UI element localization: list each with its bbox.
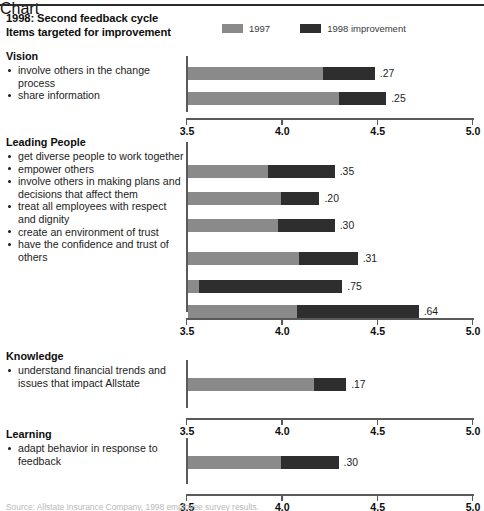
section-labels: Knowledgeunderstand financial trends and…: [6, 350, 184, 389]
legend-swatch-1998-icon: [300, 24, 321, 33]
bar-value-label: .17: [351, 379, 365, 390]
bar-segment-1997: [188, 92, 339, 105]
bar-value-label: .31: [363, 253, 377, 264]
x-axis-tick-label: 3.5: [180, 325, 195, 337]
bar-segment-1997: [188, 280, 200, 293]
bullet-icon: [8, 369, 11, 372]
list-item: have the confidence and trust of others: [6, 238, 184, 263]
bar-value-label: .30: [340, 220, 354, 231]
list-item: involve others in making plans and decis…: [6, 175, 184, 200]
chart-section-learning: Learningadapt behavior in response to fe…: [0, 428, 484, 504]
x-axis-tick: [186, 120, 187, 125]
chart-section-knowledge: Knowledgeunderstand financial trends and…: [0, 350, 484, 428]
bullet-icon: [8, 205, 11, 208]
x-axis-tick: [472, 320, 473, 325]
bar-segment-1997: [188, 456, 282, 469]
bar-stack: [188, 92, 387, 105]
bar-segment-1998-improvement: [297, 305, 419, 318]
bar-segment-1997: [188, 378, 314, 391]
x-axis-line: [186, 418, 474, 420]
x-axis-tick: [281, 120, 282, 125]
bar-value-label: .64: [424, 306, 438, 317]
list-item-label: involve others in making plans and decis…: [18, 175, 181, 200]
x-axis-line: [186, 118, 474, 120]
section-labels: Learningadapt behavior in response to fe…: [6, 428, 184, 467]
plot-area: 3.54.04.55.0.35.20.30.31.75.64: [186, 142, 482, 336]
x-axis-tick: [472, 120, 473, 125]
plot-area: 3.54.04.55.0.17: [186, 360, 482, 436]
footnote: Source: Allstate Insurance Company, 1998…: [6, 503, 476, 511]
section-heading: Learning: [6, 428, 184, 441]
bar-segment-1997: [188, 67, 324, 80]
bar-stack: [188, 192, 320, 205]
list-item: share information: [6, 89, 184, 102]
list-item: understand financial trends and issues t…: [6, 364, 184, 389]
bar-segment-1998-improvement: [199, 280, 342, 293]
bar-segment-1998-improvement: [281, 456, 338, 469]
bar-stack: [188, 252, 358, 265]
bar-segment-1998-improvement: [323, 67, 374, 80]
list-item-label: adapt behavior in response to feedback: [18, 442, 158, 467]
list-item: treat all employees with respect and dig…: [6, 200, 184, 225]
x-axis-tick: [472, 420, 473, 425]
x-axis-tick: [377, 120, 378, 125]
bar-stack: [188, 280, 343, 293]
x-axis-tick: [281, 496, 282, 501]
bullet-icon: [8, 69, 11, 72]
list-item: get diverse people to work together: [6, 150, 184, 163]
bullet-icon: [8, 94, 11, 97]
bar-segment-1998-improvement: [339, 92, 387, 105]
legend-label-1997: 1997: [249, 23, 270, 34]
section-labels: Visioninvolve others in the change proce…: [6, 50, 184, 102]
list-item: adapt behavior in response to feedback: [6, 442, 184, 467]
bar-segment-1998-improvement: [299, 252, 358, 265]
bar-segment-1997: [188, 219, 278, 232]
section-heading: Leading People: [6, 136, 184, 149]
bar-segment-1997: [188, 252, 299, 265]
list-item-label: get diverse people to work together: [18, 150, 183, 162]
bar-stack: [188, 378, 347, 391]
chart-legend: 1997 1998 improvement: [222, 23, 406, 34]
list-item: empower others: [6, 163, 184, 176]
bullet-icon: [8, 167, 11, 170]
x-axis-tick-label: 4.0: [275, 325, 290, 337]
x-axis-tick: [186, 320, 187, 325]
x-axis-tick: [377, 320, 378, 325]
bar-value-label: .25: [391, 93, 405, 104]
x-axis-tick: [281, 420, 282, 425]
list-item: create an environment of trust: [6, 226, 184, 239]
x-axis-tick: [186, 420, 187, 425]
x-axis-tick: [281, 320, 282, 325]
legend-label-1998: 1998 improvement: [327, 23, 406, 34]
list-item-label: treat all employees with respect and dig…: [18, 200, 166, 225]
list-item: involve others in the change process: [6, 64, 184, 89]
page-title-line-1: 1998: Second feedback cycle: [6, 12, 216, 26]
bar-value-label: .30: [344, 457, 358, 468]
section-labels: Leading Peopleget diverse people to work…: [6, 136, 184, 263]
chart-section-leading-people: Leading Peopleget diverse people to work…: [0, 136, 484, 344]
bullet-icon: [8, 180, 11, 183]
list-item-label: involve others in the change process: [18, 64, 150, 89]
x-axis-tick: [377, 420, 378, 425]
bar-value-label: .27: [380, 68, 394, 79]
list-item-label: create an environment of trust: [18, 226, 159, 238]
x-axis-tick: [377, 496, 378, 501]
bar-value-label: .20: [324, 193, 338, 204]
bar-value-label: .35: [340, 166, 354, 177]
section-heading: Knowledge: [6, 350, 184, 363]
x-axis-line: [186, 494, 474, 496]
page-title-line-2: Items targeted for improvement: [6, 26, 216, 40]
bullet-icon: [8, 155, 11, 158]
list-item-label: understand financial trends and issues t…: [18, 364, 166, 389]
list-item-label: empower others: [18, 163, 94, 175]
chart-section-vision: Visioninvolve others in the change proce…: [0, 50, 484, 132]
legend-entry-1998: 1998 improvement: [300, 23, 406, 34]
x-axis-tick: [186, 496, 187, 501]
x-axis-tick-label: 4.5: [370, 325, 385, 337]
bar-stack: [188, 67, 375, 80]
bar-segment-1998-improvement: [314, 378, 346, 391]
bar-stack: [188, 165, 335, 178]
bar-segment-1997: [188, 165, 268, 178]
section-heading: Vision: [6, 50, 184, 63]
x-axis-line: [186, 318, 474, 320]
